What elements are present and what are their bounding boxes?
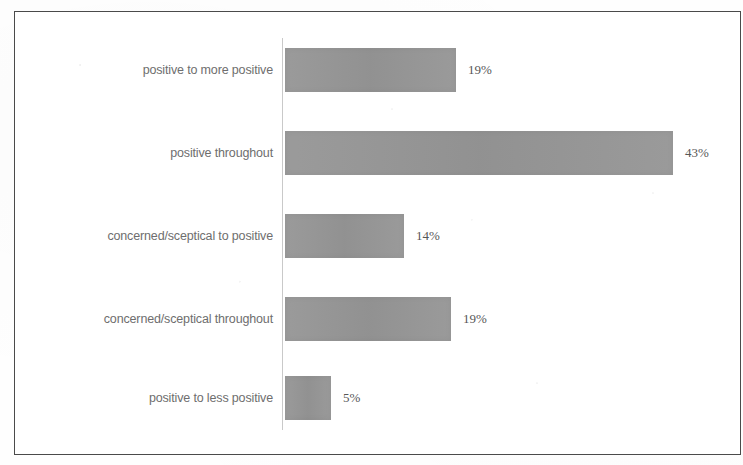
bar-row: positive to more positive 19% xyxy=(15,42,740,98)
bar-row: positive to less positive 5% xyxy=(15,370,740,426)
bar-row: positive throughout 43% xyxy=(15,125,740,181)
value-label: 19% xyxy=(463,311,487,327)
bar-row: concerned/sceptical to positive 14% xyxy=(15,208,740,264)
bar-track: 19% xyxy=(285,297,451,341)
value-label: 14% xyxy=(416,228,440,244)
bar-track: 43% xyxy=(285,131,673,175)
bar xyxy=(285,376,331,420)
bar-track: 19% xyxy=(285,48,456,92)
bar xyxy=(285,297,451,341)
bar xyxy=(285,131,673,175)
bar xyxy=(285,48,456,92)
category-label: positive to less positive xyxy=(15,391,273,405)
value-label: 43% xyxy=(685,145,709,161)
category-label: concerned/sceptical throughout xyxy=(15,312,273,326)
value-label: 5% xyxy=(343,390,360,406)
category-label: concerned/sceptical to positive xyxy=(15,229,273,243)
bar-track: 14% xyxy=(285,214,404,258)
chart-plot-area: positive to more positive 19% positive t… xyxy=(15,12,740,454)
category-label: positive to more positive xyxy=(15,63,273,77)
category-label: positive throughout xyxy=(15,146,273,160)
bar-row: concerned/sceptical throughout 19% xyxy=(15,291,740,347)
bar xyxy=(285,214,404,258)
bar-track: 5% xyxy=(285,376,331,420)
value-label: 19% xyxy=(468,62,492,78)
chart-frame: positive to more positive 19% positive t… xyxy=(14,11,741,455)
